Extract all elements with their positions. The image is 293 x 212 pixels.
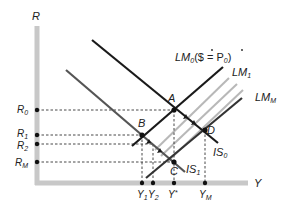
rm-label: RM <box>15 157 28 169</box>
point-c-label: C <box>170 165 178 177</box>
r1-label: R1 <box>17 128 28 140</box>
r0-label: R0 <box>17 104 28 116</box>
ym-label: YM <box>199 189 212 201</box>
point-c-dot <box>171 159 176 164</box>
point-b-dot <box>139 132 144 137</box>
intermediate-lm-lines <box>155 78 243 162</box>
x-axis-label: Y <box>254 177 262 189</box>
y1-label: Y1 <box>137 189 148 201</box>
is1-label: IS1 <box>186 163 200 176</box>
lm0-label: LM0($ = P0) <box>175 51 231 64</box>
r2-label: R2 <box>17 140 28 152</box>
point-d-label: D <box>207 124 215 136</box>
point-a-label: A <box>167 92 175 104</box>
axis-dots <box>35 108 207 185</box>
dot-over-p <box>241 49 243 51</box>
dashed-guides <box>37 110 205 183</box>
lm1-label: LM1 <box>232 66 251 79</box>
y2-label: Y2 <box>148 189 159 201</box>
point-a-dot <box>171 107 176 112</box>
is0-label: IS0 <box>213 146 227 159</box>
is-lm-diagram: R Y A B C D LM0($ = P0) LM1 LMM IS0 IS1 … <box>0 0 293 212</box>
dot-over-dollar <box>211 49 213 51</box>
lmm-label: LMM <box>255 91 276 104</box>
is1-curve <box>66 70 185 172</box>
ystar-label: Y* <box>168 189 178 200</box>
point-b-label: B <box>138 117 145 129</box>
y-axis-label: R <box>32 10 40 22</box>
